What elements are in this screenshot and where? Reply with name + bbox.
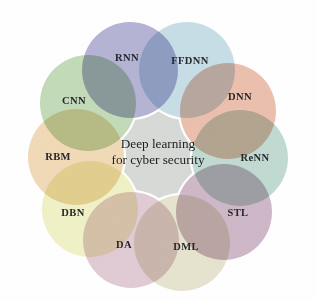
paper-grain-overlay (0, 0, 316, 301)
venn-svg-canvas (0, 0, 316, 301)
grain-rect (0, 0, 316, 301)
venn-diagram: RNNFFDNNDNNReNNSTLDMLDADBNRBMCNN Deep le… (0, 0, 316, 301)
